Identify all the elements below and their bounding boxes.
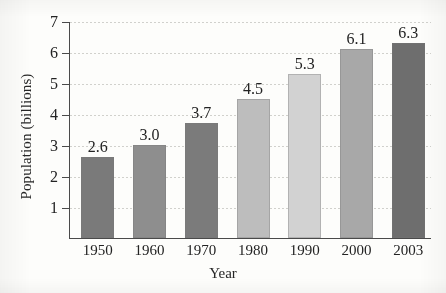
bar-value-label: 4.5 <box>243 81 263 97</box>
y-tick-label: 1 <box>50 200 58 216</box>
y-tick-label: 3 <box>50 138 58 154</box>
population-bar-chart: Population (billions) 1234567 2.63.03.74… <box>0 0 446 293</box>
x-tick-label: 1980 <box>238 243 268 258</box>
y-tick-label: 7 <box>50 14 58 30</box>
y-tick-mark <box>62 22 69 23</box>
bar-value-label: 6.1 <box>346 31 366 47</box>
x-axis-title: Year <box>0 265 446 282</box>
bar: 5.3 <box>288 74 321 238</box>
x-tick-label: 1950 <box>83 243 113 258</box>
y-tick-label: 5 <box>50 76 58 92</box>
bar: 4.5 <box>237 99 270 239</box>
y-tick-label: 6 <box>50 45 58 61</box>
x-axis-line <box>69 238 431 239</box>
y-tick-mark <box>62 177 69 178</box>
y-tick-mark <box>62 53 69 54</box>
x-tick-label: 2000 <box>341 243 371 258</box>
y-tick-mark <box>62 115 69 116</box>
y-tick-label: 2 <box>50 169 58 185</box>
y-tick-label: 4 <box>50 107 58 123</box>
bar-value-label: 3.0 <box>140 127 160 143</box>
bar-value-label: 5.3 <box>295 56 315 72</box>
gridline <box>70 53 431 54</box>
bar-value-label: 2.6 <box>88 139 108 155</box>
plot-area: 1234567 2.63.03.74.55.36.16.3 1950196019… <box>69 22 431 239</box>
x-tick-label: 2003 <box>393 243 423 258</box>
x-tick-label: 1970 <box>186 243 216 258</box>
bar-value-label: 6.3 <box>398 25 418 41</box>
bar: 6.1 <box>340 49 373 238</box>
gridline <box>70 22 431 23</box>
x-tick-label: 1960 <box>135 243 165 258</box>
bar-value-label: 3.7 <box>191 105 211 121</box>
y-tick-mark <box>62 208 69 209</box>
y-axis-title: Population (billions) <box>18 37 35 237</box>
bar: 6.3 <box>392 43 425 238</box>
bar: 3.0 <box>133 145 166 238</box>
y-axis-line <box>69 22 70 239</box>
bar: 3.7 <box>185 123 218 238</box>
bar: 2.6 <box>81 157 114 238</box>
x-tick-label: 1990 <box>290 243 320 258</box>
y-tick-mark <box>62 84 69 85</box>
y-tick-mark <box>62 146 69 147</box>
